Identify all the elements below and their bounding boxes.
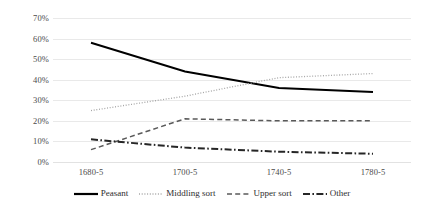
y-axis-tick-label: 40% [3,76,49,85]
legend-swatch-dashdot [303,190,327,198]
legend-item-other[interactable]: Other [303,189,351,198]
legend-label: Other [330,189,351,198]
legend-label: Peasant [101,189,129,198]
y-axis: 0%10%20%30%40%50%60%70% [0,18,49,162]
y-axis-tick-label: 50% [3,55,49,64]
series-line-upper-sort [91,119,373,150]
chart-container: 0%10%20%30%40%50%60%70% 1680-51700-51740… [0,0,424,211]
gridline [53,162,411,163]
y-axis-tick-label: 10% [3,137,49,146]
legend-label: Middling sort [166,189,215,198]
y-axis-tick-label: 20% [3,117,49,126]
x-axis-tick-label: 1740-5 [267,168,292,177]
series-line-other [91,139,373,153]
legend-swatch-dotted [139,190,163,198]
legend-item-middling-sort[interactable]: Middling sort [139,189,215,198]
y-axis-tick-label: 30% [3,96,49,105]
legend-swatch-dashed [227,190,251,198]
legend-item-peasant[interactable]: Peasant [74,189,129,198]
y-axis-tick-label: 70% [3,14,49,23]
x-axis-tick-label: 1780-5 [361,168,386,177]
legend-label: Upper sort [254,189,292,198]
series-line-peasant [91,43,373,92]
legend-swatch-solid [74,190,98,198]
x-axis-tick-label: 1700-5 [173,168,198,177]
chart-legend: PeasantMiddling sortUpper sortOther [0,189,424,198]
y-axis-tick-label: 0% [3,158,49,167]
legend-item-upper-sort[interactable]: Upper sort [227,189,292,198]
y-axis-tick-label: 60% [3,35,49,44]
x-axis-tick-label: 1680-5 [79,168,104,177]
plot-area [53,18,411,162]
series-lines [53,18,411,162]
